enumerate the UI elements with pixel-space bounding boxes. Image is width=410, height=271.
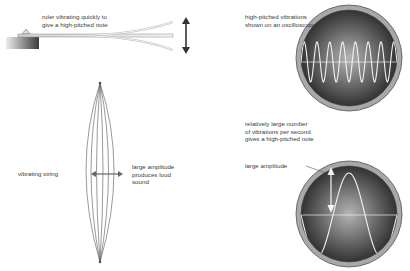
vibration-arrow-icon — [182, 17, 190, 54]
oscilloscope-high-label: high-pitched vibrations shown on an osci… — [245, 13, 316, 28]
amplitude-label: large amplitude — [245, 162, 287, 170]
string-label: vibrating string — [18, 170, 58, 178]
loud-sound-label: large amplitude produces loud sound — [132, 163, 174, 186]
ruler-down — [95, 36, 173, 50]
ruler-label: ruler vibrating quickly to give a high-p… — [42, 13, 108, 28]
clamp-icon — [22, 29, 30, 34]
table-block — [6, 37, 39, 49]
vibrating-string — [86, 82, 114, 263]
amplitude-arrow-icon — [91, 171, 123, 177]
diagram-canvas — [0, 0, 410, 271]
vibrations-label: relatively large number of vibrations pe… — [245, 120, 314, 143]
oscilloscope-large-amplitude — [296, 161, 402, 267]
